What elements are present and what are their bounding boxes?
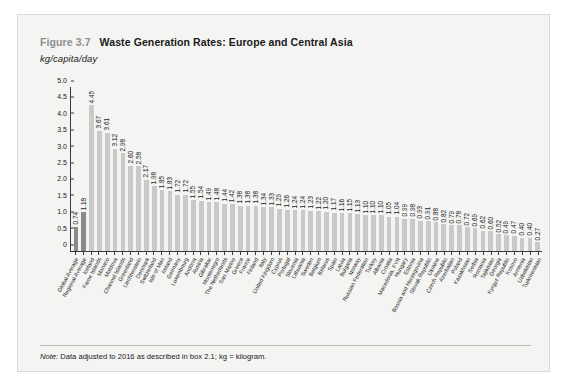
bar-slot: 1.10 — [369, 87, 377, 251]
bar-slot: 1.13 — [354, 87, 362, 251]
bar-slot: 1.18 — [80, 87, 88, 251]
bar-slot: 1.22 — [315, 87, 323, 251]
bar-slot: 2.60 — [127, 87, 135, 251]
y-tick-label: 2.0 — [57, 175, 71, 182]
bar-value-label: 1.85 — [159, 176, 165, 188]
bar-value-label: 1.55 — [190, 186, 196, 198]
bar-value-label: 1.15 — [347, 199, 353, 211]
note-text: Data adjusted to 2016 as described in bo… — [58, 352, 266, 361]
bar-slot: 1.16 — [338, 87, 346, 251]
bar-slot: 1.54 — [197, 87, 205, 251]
bar-slot: 1.98 — [150, 87, 158, 251]
bar-value-label: 0.88 — [433, 208, 439, 220]
y-tick-label: 3.0 — [57, 142, 71, 149]
bar-value-label: 0.47 — [511, 221, 517, 233]
figure-subtitle: kg/capita/day — [40, 53, 535, 64]
bar-value-label: 1.16 — [339, 199, 345, 211]
figure-number: Figure 3.7 — [40, 36, 91, 48]
bar-slot: 0.62 — [479, 87, 487, 251]
bar-value-label: 4.45 — [88, 91, 94, 103]
bar-value-label: 1.72 — [182, 180, 188, 192]
bar-value-label: 1.29 — [276, 194, 282, 206]
bar-value-label: 0.49 — [503, 220, 509, 232]
figure-title: Waste Generation Rates: Europe and Centr… — [100, 36, 353, 48]
bar-value-label: 2.60 — [127, 151, 133, 163]
bar-value-label: 1.17 — [331, 198, 337, 210]
bar-value-label: 1.18 — [81, 198, 87, 210]
bar-slot: 1.42 — [229, 87, 237, 251]
bar-value-label: 1.24 — [300, 196, 306, 208]
bar: 0.74 — [74, 227, 79, 251]
bar-value-label: 1.10 — [362, 200, 368, 212]
bar-value-label: 1.13 — [355, 199, 361, 211]
figure-header: Figure 3.7Waste Generation Rates: Europe… — [40, 32, 535, 64]
bar-value-label: 0.60 — [488, 217, 494, 229]
bar-slot: 0.27 — [534, 87, 542, 251]
y-tick-label: 5.0 — [57, 77, 71, 84]
bar-slot: 0.74 — [72, 87, 80, 251]
bar-value-label: 1.38 — [253, 191, 259, 203]
bar-slot: 1.55 — [189, 87, 197, 251]
bar-slot: 1.38 — [252, 87, 260, 251]
y-tick-label: 3.5 — [57, 126, 71, 133]
bar-value-label: 1.48 — [214, 188, 220, 200]
bar-slot: 3.12 — [111, 87, 119, 251]
bar-slot: 0.99 — [401, 87, 409, 251]
footer-divider — [40, 345, 531, 346]
bar-value-label: 3.67 — [96, 116, 102, 128]
note-label: Note: — [40, 352, 58, 361]
y-tick-label: 1.5 — [57, 191, 71, 198]
bar-value-label: 1.98 — [151, 172, 157, 184]
figure-page: Figure 3.7Waste Generation Rates: Europe… — [0, 0, 567, 386]
bar-slot: 1.29 — [276, 87, 284, 251]
x-slot: Turkmenistan — [534, 252, 542, 327]
bar-value-label: 1.05 — [386, 202, 392, 214]
bar-slot: 1.15 — [346, 87, 354, 251]
bar-value-label: 1.10 — [370, 200, 376, 212]
chart-area: 00.51.01.52.02.53.03.54.04.55.0 0.741.18… — [42, 87, 542, 327]
bar-value-label: 1.42 — [229, 190, 235, 202]
bar-value-label: 2.17 — [143, 165, 149, 177]
bar-slot: 1.04 — [393, 87, 401, 251]
bar-value-label: 0.62 — [480, 216, 486, 228]
bar-value-label: 0.74 — [73, 212, 79, 224]
bar-slot: 0.60 — [487, 87, 495, 251]
bar-slot: 1.24 — [299, 87, 307, 251]
bar-value-label: 1.24 — [292, 196, 298, 208]
bar-value-label: 1.26 — [284, 195, 290, 207]
bar-slot: 1.10 — [362, 87, 370, 251]
bar-value-label: 1.10 — [378, 200, 384, 212]
bar-value-label: 0.69 — [472, 214, 478, 226]
y-tick-label: 0 — [63, 241, 71, 248]
bar: 2.98 — [121, 153, 126, 251]
y-tick-label: 4.5 — [57, 93, 71, 100]
bar-value-label: 1.38 — [237, 191, 243, 203]
title-line: Figure 3.7Waste Generation Rates: Europe… — [40, 32, 535, 50]
x-axis-labels: Global AverageRegional AverageIcelandFar… — [71, 252, 542, 327]
bar-slot: 1.49 — [205, 87, 213, 251]
bar-slot: 1.23 — [307, 87, 315, 251]
bar-slot: 1.34 — [260, 87, 268, 251]
bar-value-label: 1.04 — [394, 202, 400, 214]
bar-slot: 1.48 — [213, 87, 221, 251]
y-tick-label: 0.5 — [57, 224, 71, 231]
bar-value-label: 1.83 — [167, 177, 173, 189]
bar-value-label: 1.38 — [245, 191, 251, 203]
bar: 1.33 — [269, 207, 274, 251]
bar-slot: 1.83 — [166, 87, 174, 251]
bar-value-label: 0.91 — [425, 207, 431, 219]
bar-slot: 2.98 — [119, 87, 127, 251]
figure-note: Note: Data adjusted to 2016 as described… — [40, 352, 266, 361]
bar-value-label: 0.93 — [417, 206, 423, 218]
y-tick-label: 1.0 — [57, 208, 71, 215]
bar-value-label: 3.12 — [112, 134, 118, 146]
bar-value-label: 1.34 — [261, 193, 267, 205]
bar-slot: 0.91 — [424, 87, 432, 251]
bar-slot: 1.20 — [323, 87, 331, 251]
bar-value-label: 2.98 — [120, 139, 126, 151]
bar-value-label: 1.54 — [198, 186, 204, 198]
bar: 3.61 — [105, 133, 110, 251]
bar-slot: 1.72 — [174, 87, 182, 251]
bar-value-label: 0.98 — [409, 204, 415, 216]
bar-slot: 1.85 — [158, 87, 166, 251]
